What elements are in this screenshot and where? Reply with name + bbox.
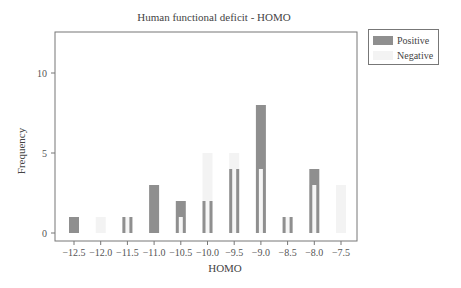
legend-item-negative: Negative [373,49,433,61]
bar-overlap [286,217,290,233]
y-tick-label: 0 [42,228,47,239]
x-tick-label: −9.0 [252,247,270,258]
y-tick-label: 5 [42,148,47,159]
x-tick-label: −12.5 [62,247,85,258]
bar-overlap [179,217,183,233]
x-tick-label: −10.0 [196,247,219,258]
x-tick-label: −8.0 [305,247,323,258]
bar-overlap [206,201,210,233]
bar-overlap [125,217,129,233]
x-tick-label: −9.5 [225,247,243,258]
bar-overlap [259,169,263,233]
y-axis-label: Frequency [15,116,27,186]
x-axis-label: HOMO [180,262,270,274]
x-tick-label: −11.0 [143,247,166,258]
x-tick-label: −8.5 [279,247,297,258]
legend-item-positive: Positive [373,34,429,46]
bar-overlap [232,169,236,233]
y-tick-label: 10 [37,68,47,79]
legend-label-positive: Positive [397,35,429,46]
x-tick-label: −7.5 [332,247,350,258]
legend-swatch-negative [373,51,393,60]
bar-overlap [312,185,316,233]
x-tick-label: −10.5 [169,247,192,258]
legend-swatch-positive [373,36,393,45]
legend-label-negative: Negative [397,50,433,61]
bar-positive [69,217,79,233]
legend: Positive Negative [368,29,439,65]
bar-negative [96,217,106,233]
bar-positive [149,185,159,233]
bar-negative [336,185,346,233]
x-tick-label: −11.5 [116,247,139,258]
chart-root: Human functional deficit - HOMO 0510−12.… [0,0,461,288]
x-tick-label: −12.0 [89,247,112,258]
